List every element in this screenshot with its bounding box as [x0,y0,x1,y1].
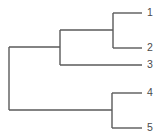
leaf-label-1: 1 [147,6,153,18]
dendrogram-leaf-labels: 12345 [147,6,153,133]
leaf-label-3: 3 [147,58,153,70]
leaf-label-2: 2 [147,41,153,53]
leaf-label-4: 4 [147,86,153,98]
leaf-label-5: 5 [147,121,153,133]
dendrogram-branches [9,13,142,128]
dendrogram-canvas: 12345 [0,0,165,140]
dendrogram-figure: 12345 [0,0,165,140]
